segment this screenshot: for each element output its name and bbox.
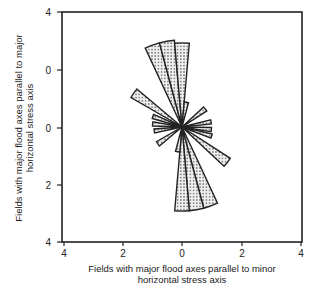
y-tick-label: 4 xyxy=(45,237,51,248)
y-tick-label: 2 xyxy=(45,180,51,191)
y-axis-title-line2: horizontal stress axis xyxy=(24,83,35,172)
x-tick-label: 0 xyxy=(179,248,185,259)
petals-group xyxy=(131,40,230,211)
x-tick-label: 2 xyxy=(120,248,126,259)
x-axis-title-line2: horizontal stress axis xyxy=(138,274,227,285)
y-axis-title-line1: Fields with major flood axes parallel to… xyxy=(13,34,24,221)
x-axis: 4 2 0 2 4 xyxy=(61,242,304,259)
x-axis-title-line1: Fields with major flood axes parallel to… xyxy=(88,263,275,274)
rose-diagram: 4 0 0 2 4 4 2 0 2 4 Fields with major fl… xyxy=(0,0,316,296)
y-tick-label: 4 xyxy=(45,7,51,18)
y-tick-label: 0 xyxy=(45,123,51,134)
y-axis: 4 0 0 2 4 xyxy=(45,7,62,248)
x-tick-label: 4 xyxy=(298,248,304,259)
y-tick-label: 0 xyxy=(45,65,51,76)
x-tick-label: 4 xyxy=(61,248,67,259)
x-tick-label: 2 xyxy=(239,248,245,259)
